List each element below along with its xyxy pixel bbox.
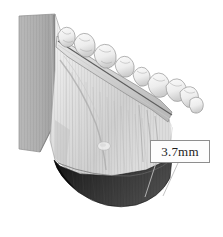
measurement-label: 3.7mm (161, 144, 198, 160)
mandible-figure: 3.7mm (0, 0, 223, 237)
tooth-anterior-fragment (189, 97, 203, 113)
tooth-premolar-1 (133, 67, 150, 86)
mandible-render (0, 0, 223, 237)
measurement-callout-box: 3.7mm (150, 140, 210, 163)
